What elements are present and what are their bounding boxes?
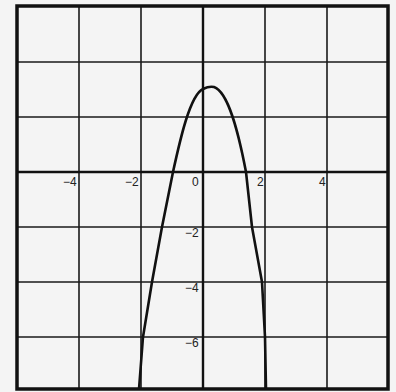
y-tick-labels: −2 −4 −6 [185,226,199,350]
x-label-neg4: −4 [63,175,77,189]
x-label-0: 0 [192,175,199,189]
y-label-neg2: −2 [185,226,199,240]
y-label-neg6: −6 [185,336,199,350]
x-tick-labels: −4 −2 0 2 4 [63,175,326,189]
x-label-2: 2 [257,175,264,189]
y-label-neg4: −4 [185,281,199,295]
x-label-4: 4 [319,175,326,189]
axes [17,6,388,389]
graph: −4 −2 0 2 4 −2 −4 −6 [0,0,396,392]
x-label-neg2: −2 [125,175,139,189]
